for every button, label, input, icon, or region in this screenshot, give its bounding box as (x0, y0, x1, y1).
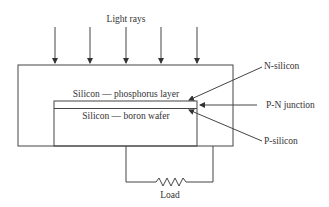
left-wire (126, 146, 156, 182)
resistor-icon (156, 178, 186, 186)
load-label: Load (160, 190, 180, 200)
phosphorus-layer-label: Silicon — phosphorus layer (73, 89, 180, 99)
pn-junction-label: P-N junction (266, 100, 315, 110)
n-silicon-label: N-silicon (264, 61, 300, 71)
p-silicon-label: P-silicon (264, 136, 298, 146)
n-silicon-callout-line (189, 67, 262, 100)
right-wire (186, 146, 213, 182)
light-ray-arrows (55, 27, 197, 63)
boron-wafer-label: Silicon — boron wafer (82, 111, 170, 121)
solar-cell-diagram: Light rays Silicon — phosphorus layer Si… (0, 0, 329, 207)
wafer-box (54, 101, 197, 146)
p-silicon-callout-line (189, 110, 262, 141)
light-rays-label: Light rays (107, 14, 146, 24)
load-circuit (126, 146, 213, 186)
